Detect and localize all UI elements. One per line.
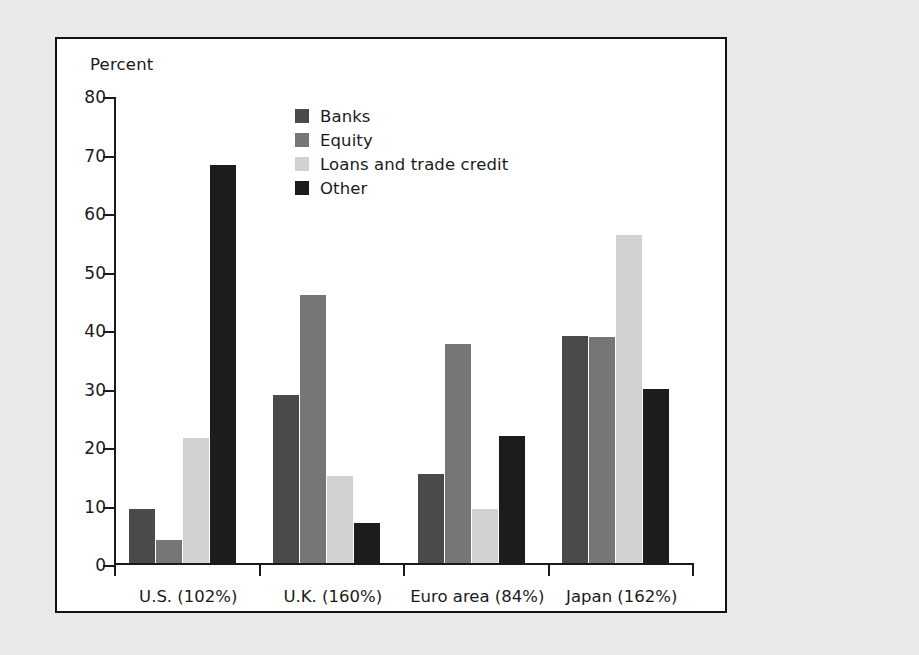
legend-swatch-icon: [295, 157, 309, 171]
x-axis-category-label: Japan (162%): [566, 587, 677, 606]
bar: [156, 540, 182, 563]
bar: [562, 336, 588, 563]
y-axis-title: Percent: [90, 55, 154, 74]
bar: [589, 337, 615, 563]
legend-item: Loans and trade credit: [295, 152, 508, 176]
y-tick-label: 50: [84, 263, 106, 283]
y-tick-label: 70: [84, 146, 106, 166]
legend-item: Other: [295, 176, 508, 200]
bar: [643, 389, 669, 563]
bar: [129, 509, 155, 563]
y-tick-label: 40: [84, 321, 106, 341]
y-tick-label: 10: [84, 497, 106, 517]
bar: [499, 436, 525, 563]
chart-legend: BanksEquityLoans and trade creditOther: [295, 104, 508, 200]
bar: [616, 235, 642, 563]
y-tick-label: 0: [95, 555, 106, 575]
legend-item: Banks: [295, 104, 508, 128]
x-tick-mark: [692, 565, 694, 576]
bar-group: [116, 95, 261, 563]
y-tick-label: 60: [84, 204, 106, 224]
x-axis-category-label: U.K. (160%): [283, 587, 382, 606]
x-tick-mark: [259, 565, 261, 576]
x-axis-category-label: Euro area (84%): [410, 587, 544, 606]
legend-swatch-icon: [295, 181, 309, 195]
bar: [354, 523, 380, 563]
bar-group: [550, 95, 695, 563]
x-axis-category-label: U.S. (102%): [139, 587, 237, 606]
bar: [183, 438, 209, 563]
legend-item: Equity: [295, 128, 508, 152]
bar: [327, 476, 353, 563]
x-tick-mark: [548, 565, 550, 576]
legend-label: Loans and trade credit: [320, 155, 508, 174]
y-tick-label: 20: [84, 438, 106, 458]
chart-panel: Percent 80706050403020100 U.S. (102%)U.K…: [55, 37, 727, 613]
bar: [445, 344, 471, 563]
bar: [273, 395, 299, 563]
y-tick-label: 30: [84, 380, 106, 400]
legend-swatch-icon: [295, 133, 309, 147]
legend-label: Equity: [320, 131, 373, 150]
bar: [210, 165, 236, 563]
x-tick-mark: [403, 565, 405, 576]
legend-label: Banks: [320, 107, 371, 126]
legend-swatch-icon: [295, 109, 309, 123]
y-tick-label: 80: [84, 87, 106, 107]
x-tick-mark: [114, 565, 116, 576]
bar: [300, 295, 326, 564]
bar: [418, 474, 444, 564]
bar: [472, 509, 498, 563]
legend-label: Other: [320, 179, 367, 198]
